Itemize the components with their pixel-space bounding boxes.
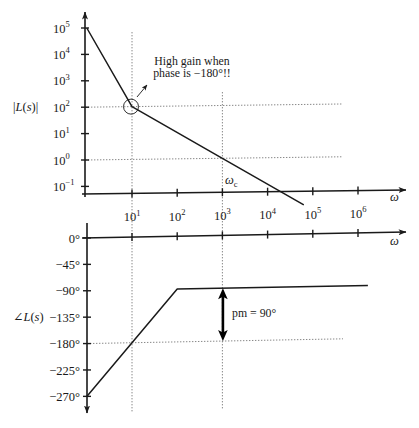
- x-tick-label-base: 10: [214, 209, 227, 223]
- x-tick-label-exponent: 1: [136, 208, 140, 218]
- x-tick-label: 101: [124, 208, 141, 225]
- crossover-label-omega: ω: [225, 173, 234, 187]
- phase-horizontal-gridline: [87, 339, 343, 344]
- magnitude-x-axis-label: ω: [390, 190, 399, 204]
- x-tick-label-exponent: 6: [362, 204, 366, 214]
- phase-y-tick-label: −45°: [55, 258, 80, 272]
- phase-margin-label: pm = 90°: [232, 306, 276, 320]
- magnitude-horizontal-gridline: [85, 157, 342, 160]
- x-tick-label-exponent: 2: [181, 207, 185, 217]
- magnitude-y-tick-label: 104: [53, 45, 71, 62]
- phase-y-tick-label: −135°: [49, 311, 80, 325]
- phase-y-tick-label: 0°: [69, 232, 80, 246]
- crossover-label-subscript: c: [234, 179, 238, 189]
- phase-x-axis-label: ω: [390, 234, 399, 248]
- phase-y-tick-label: −90°: [55, 284, 80, 298]
- y-tick-label-exponent: 3: [66, 72, 70, 82]
- annotation-line-2: phase is −180°!!: [153, 66, 231, 80]
- magnitude-y-tick-label: 101: [53, 125, 70, 142]
- x-tick-label: 103: [214, 206, 231, 223]
- x-tick-label-exponent: 5: [317, 205, 321, 215]
- x-tick-label-exponent: 3: [227, 206, 231, 216]
- x-tick-label: 104: [259, 206, 277, 223]
- magnitude-y-tick-label: 105: [53, 19, 70, 36]
- y-tick-label-base: 10: [53, 48, 66, 62]
- y-tick-label-exponent: 0: [66, 151, 70, 161]
- crossover-frequency-label: ωc: [225, 173, 238, 189]
- magnitude-y-tick-label: 10−1: [53, 177, 75, 194]
- labels: 10110210310410510610510410310210110010−1…: [13, 19, 399, 404]
- x-tick-label: 102: [169, 207, 186, 224]
- x-tick-label: 105: [304, 205, 321, 222]
- x-tick-label-exponent: 4: [272, 206, 277, 216]
- x-tick-label-base: 10: [304, 208, 317, 222]
- magnitude-y-tick-label: 103: [53, 72, 70, 89]
- x-tick-label-base: 10: [259, 208, 272, 222]
- phase-y-axis-label: ∠L(s): [13, 310, 44, 324]
- phase-curve: [87, 286, 368, 397]
- phase-y-tick-label: −180°: [49, 337, 80, 351]
- y-tick-label-base: 10: [53, 22, 66, 36]
- annotation-arrow-icon: [137, 85, 147, 97]
- y-tick-label-exponent: 5: [66, 19, 70, 29]
- x-tick-label: 106: [350, 204, 367, 221]
- y-tick-label-exponent: 1: [66, 125, 70, 135]
- y-tick-label-exponent: 2: [66, 98, 70, 108]
- magnitude-y-tick-label: 100: [53, 151, 70, 168]
- x-tick-label-base: 10: [169, 210, 182, 224]
- y-tick-label-exponent: −1: [66, 177, 75, 187]
- x-tick-label-base: 10: [350, 207, 363, 221]
- x-tick-label-base: 10: [124, 210, 137, 224]
- phase-margin-double-arrow-icon: [218, 288, 228, 341]
- magnitude-y-axis-label: |L(s)|: [13, 100, 38, 114]
- magnitude-y-tick-label: 102: [53, 98, 70, 115]
- phase-y-tick-label: −225°: [49, 364, 80, 378]
- y-tick-label-exponent: 4: [66, 45, 71, 55]
- y-tick-label-base: 10: [53, 74, 66, 88]
- bode-plot-figure: 10110210310410510610510410310210110010−1…: [0, 0, 419, 428]
- phase-y-tick-label: −270°: [49, 390, 80, 404]
- y-tick-label-base: 10: [53, 154, 66, 168]
- y-tick-label-base: 10: [53, 101, 66, 115]
- y-tick-label-base: 10: [53, 127, 66, 141]
- y-tick-label-base: 10: [53, 180, 66, 194]
